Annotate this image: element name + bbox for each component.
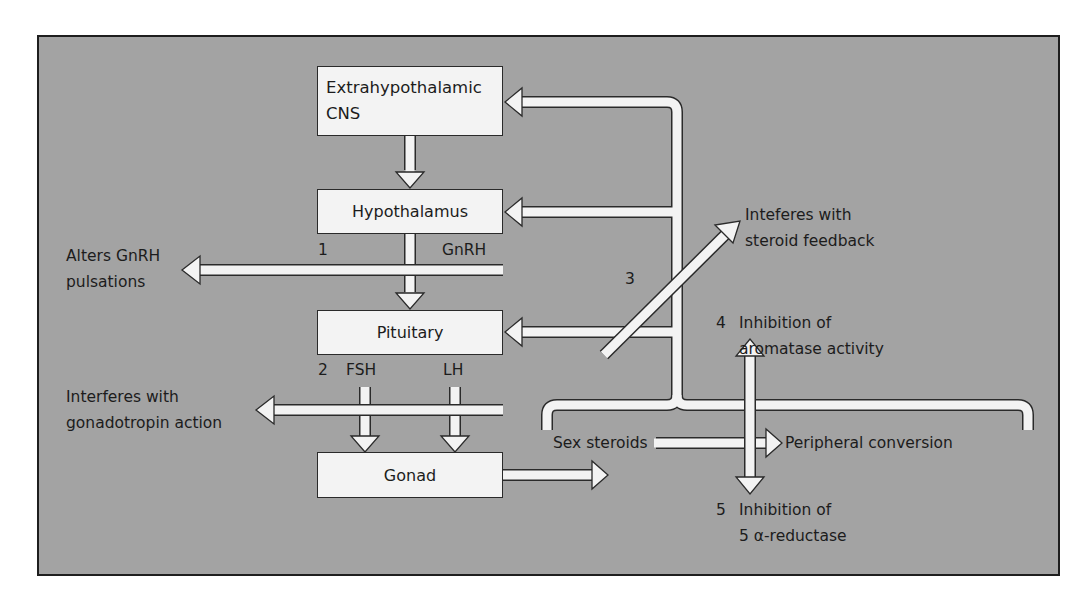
arrow-lh-to-gonad [441, 387, 469, 452]
label-alters-gnrh-pulsations: Alters GnRH pulsations [66, 243, 160, 295]
label-interferes-gonadotropin: Interferes with gonadotropin action [66, 384, 222, 436]
box-extrahypothalamic-line1: Extrahypothalamic [326, 75, 502, 101]
marker-1: 1 [318, 237, 328, 263]
arrow-cns-to-hypothalamus [396, 136, 424, 188]
arrow-2-gonadotropin [256, 396, 503, 424]
label-reductase-line1: Inhibition of [739, 497, 847, 523]
label-aromatase-line2: aromatase activity [739, 336, 884, 362]
label-aromatase-line1: Inhibition of [739, 310, 884, 336]
label-steroid-feedback: Inteferes with steroid feedback [745, 202, 874, 254]
box-pituitary-label: Pituitary [377, 323, 444, 342]
label-alters-line2: pulsations [66, 269, 160, 295]
marker-2: 2 [318, 357, 328, 383]
arrow-gonad-to-sex-steroids [500, 461, 608, 489]
marker-5: 5 [716, 497, 726, 523]
arrow-4-5-inhibition [736, 339, 764, 494]
label-steroid-feedback-line2: steroid feedback [745, 228, 874, 254]
arrow-sex-steroids-to-peripheral [654, 429, 782, 457]
box-hypothalamus: Hypothalamus [317, 189, 503, 234]
box-hypothalamus-label: Hypothalamus [352, 202, 468, 221]
label-lh: LH [443, 357, 463, 383]
label-gonadotropin-line2: gonadotropin action [66, 410, 222, 436]
marker-3: 3 [625, 266, 635, 292]
box-pituitary: Pituitary [317, 310, 503, 355]
label-reductase: Inhibition of 5 α-reductase [739, 497, 847, 549]
label-fsh: FSH [346, 357, 376, 383]
label-aromatase: Inhibition of aromatase activity [739, 310, 884, 362]
box-gonad: Gonad [317, 452, 503, 498]
box-gonad-label: Gonad [384, 466, 436, 485]
label-peripheral-conversion: Peripheral conversion [785, 430, 953, 456]
box-extrahypothalamic-line2: CNS [326, 101, 502, 127]
box-extrahypothalamic-cns: Extrahypothalamic CNS [317, 66, 503, 136]
label-gonadotropin-line1: Interferes with [66, 384, 222, 410]
marker-4: 4 [716, 310, 726, 336]
feedback-bracket [505, 88, 1028, 430]
label-reductase-line2: 5 α-reductase [739, 523, 847, 549]
label-steroid-feedback-line1: Inteferes with [745, 202, 874, 228]
label-alters-line1: Alters GnRH [66, 243, 160, 269]
arrows-layer: .o { fill: none; stroke: #2a2a2a; stroke… [0, 0, 1089, 597]
arrow-fsh-to-gonad [351, 387, 379, 452]
label-gnrh: GnRH [442, 237, 486, 263]
label-sex-steroids: Sex steroids [553, 430, 648, 456]
